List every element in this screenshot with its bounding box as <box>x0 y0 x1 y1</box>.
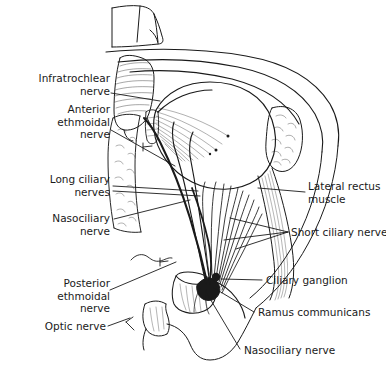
leader-short-ciliary-b <box>224 232 288 240</box>
trochlea-superior-oblique <box>114 55 156 141</box>
label-infratrochlear-nerve: Infratrochlear nerve <box>14 72 110 97</box>
orbital-floor-maxilla <box>143 301 256 360</box>
leader-anterior-ethmoidal <box>111 130 175 166</box>
figure-canvas: Infratrochlear nerve Anterior ethmoidal … <box>0 0 386 375</box>
frontal-bone-fragment <box>112 6 163 47</box>
leader-nasociliary-left <box>114 200 190 219</box>
posterior-ethmoidal-foramen <box>160 258 168 266</box>
label-nasociliary-nerve-left: Nasociliary nerve <box>14 212 110 237</box>
leader-posterior-ethmoidal <box>110 262 176 290</box>
globe-of-eye <box>154 82 276 189</box>
label-nasociliary-nerve-right: Nasociliary nerve <box>244 344 364 357</box>
label-anterior-ethmoidal-nerve: Anterior ethmoidal nerve <box>14 103 110 141</box>
label-lateral-rectus-muscle: Lateral rectus muscle <box>308 180 386 205</box>
label-ciliary-ganglion: Ciliary ganglion <box>266 274 376 287</box>
label-long-ciliary-nerves: Long ciliary nerves <box>14 173 110 198</box>
leader-ciliary-ganglion <box>221 279 262 280</box>
leader-ramus-communicans <box>214 288 254 312</box>
fiber-fan-tips <box>209 135 230 156</box>
orbital-roof <box>106 49 339 152</box>
medial-wall-lower-contour <box>131 255 172 262</box>
label-short-ciliary-nerves: Short ciliary nerves <box>291 226 386 239</box>
anterior-ethmoidal-foramen <box>143 143 152 151</box>
label-posterior-ethmoidal-nerve: Posterior ethmoidal nerve <box>10 277 110 315</box>
label-ramus-communicans: Ramus communicans <box>258 306 382 319</box>
label-optic-nerve: Optic nerve <box>10 320 106 333</box>
